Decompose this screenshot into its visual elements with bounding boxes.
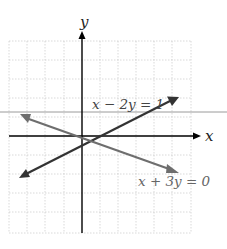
- equation-label-1: x − 2y = 1: [92, 96, 164, 112]
- y-axis-label: y: [79, 13, 89, 31]
- system-of-equations-graph: y x x − 2y = 1 x + 3y = 0: [0, 0, 227, 249]
- x-axis-label: x: [205, 127, 214, 145]
- equation-label-2: x + 3y = 0: [138, 173, 211, 189]
- x-axis-arrow-icon: [193, 133, 201, 140]
- arrowhead-icon: [166, 164, 179, 173]
- arrowhead-icon: [20, 114, 31, 123]
- y-axis-arrow-icon: [79, 31, 86, 39]
